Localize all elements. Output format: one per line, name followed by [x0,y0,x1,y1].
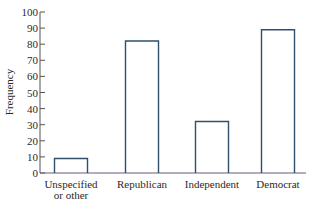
y-axis-label: Frequency [3,68,15,115]
y-tick-label: 50 [27,87,39,99]
bars [55,30,295,173]
y-tick-label: 70 [27,54,39,66]
x-category-label: or other [54,189,89,201]
bar [126,41,159,173]
y-tick-label: 80 [27,38,39,50]
x-category-label: Democrat [256,178,299,190]
x-axis-labels: Unspecifiedor otherRepublicanIndependent… [44,178,299,201]
bar [196,121,229,173]
bar [55,159,88,173]
x-category-label: Independent [185,178,239,190]
bar-chart: Frequency 0102030405060708090100 Unspeci… [0,0,315,201]
x-category-label: Republican [117,178,168,190]
y-tick-label: 100 [22,6,39,18]
y-tick-label: 0 [33,167,39,179]
y-tick-label: 20 [27,135,39,147]
y-tick-label: 60 [27,70,39,82]
y-axis: 0102030405060708090100 [22,6,307,179]
y-tick-label: 30 [27,119,39,131]
y-tick-label: 90 [27,22,39,34]
y-tick-label: 40 [27,103,39,115]
bar [262,30,295,173]
y-tick-label: 10 [27,151,39,163]
